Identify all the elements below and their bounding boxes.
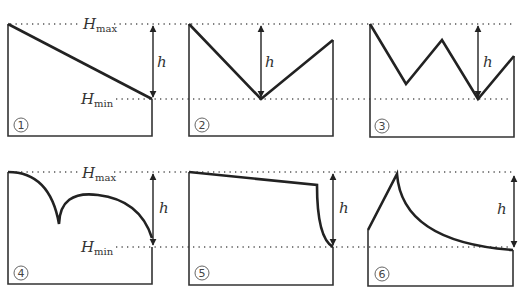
hmin-label: Hmin <box>80 238 114 257</box>
h-label: h <box>497 200 507 218</box>
panel-3: h 3 <box>370 24 514 137</box>
hmax-label: Hmax <box>81 164 117 183</box>
panel-number: 4 <box>18 267 25 280</box>
panel-5: h 5 <box>189 172 349 285</box>
panel-4-frame <box>8 172 152 284</box>
hmin-label: Hmin <box>80 90 114 109</box>
panel-1: h Hmax Hmin 1 <box>8 15 167 136</box>
panel-number: 2 <box>199 119 206 132</box>
h-label: h <box>159 199 169 217</box>
panel-6-frame <box>368 230 513 286</box>
h-label: h <box>157 53 167 71</box>
panel-4: h Hmax Hmin 4 <box>8 164 169 284</box>
panel-4-profile <box>8 172 152 238</box>
panel-2: h 2 <box>189 24 333 136</box>
fluctuation-diagram: h Hmax Hmin 1 h 2 h 3 h Hmax Hmin 4 <box>0 0 520 298</box>
panel-1-profile <box>8 24 152 99</box>
h-label: h <box>265 53 275 71</box>
panel-number: 6 <box>379 268 386 281</box>
h-label: h <box>483 53 493 71</box>
panel-1-frame <box>8 24 152 136</box>
panel-6: h 6 <box>368 174 514 286</box>
panel-number: 3 <box>379 120 386 133</box>
row2-guides <box>10 172 512 247</box>
panel-5-frame <box>189 172 333 285</box>
panel-number: 1 <box>18 119 25 132</box>
panel-6-profile <box>368 174 513 250</box>
h-label: h <box>339 199 349 217</box>
panel-5-profile <box>189 172 333 247</box>
hmax-label: Hmax <box>82 15 118 34</box>
panel-number: 5 <box>199 267 206 280</box>
